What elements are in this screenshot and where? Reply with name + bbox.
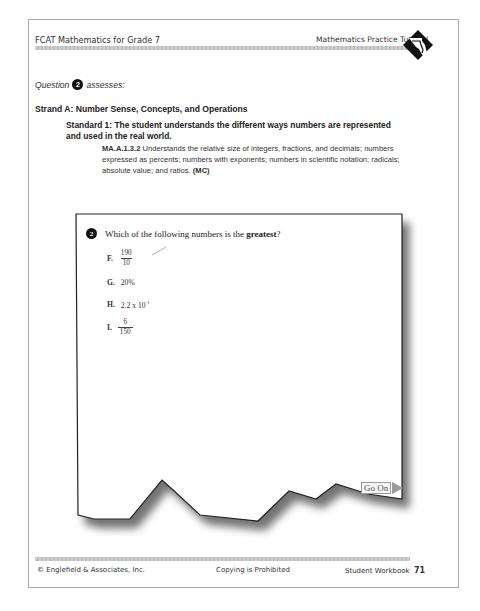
answer-choice-g[interactable]: G. 20%: [107, 278, 135, 287]
go-on-label: Go On: [361, 482, 391, 494]
choice-letter: G.: [107, 278, 115, 287]
choice-value: 20%: [121, 278, 135, 287]
choice-letter: I.: [107, 323, 112, 332]
go-on-button[interactable]: Go On: [361, 482, 403, 494]
footer-notice: Copying is Prohibited: [216, 566, 290, 574]
fraction: 190 10: [119, 249, 134, 268]
question-card: [0, 0, 480, 611]
answer-choice-h[interactable]: H. 2.2 x 10-1: [107, 300, 150, 310]
footer-copyright: © Englefield & Associates, Inc.: [37, 566, 145, 574]
question-prompt: 2 Which of the following numbers is the …: [86, 228, 281, 239]
answer-choice-i[interactable]: I. 6 150: [107, 318, 133, 337]
answer-choice-f[interactable]: F. 190 10: [107, 249, 134, 268]
page-number: 71: [414, 566, 425, 575]
arrow-right-icon: [392, 482, 403, 494]
footer-rule: [35, 557, 410, 561]
fraction: 6 150: [118, 318, 133, 337]
choice-letter: H.: [107, 300, 115, 309]
footer-page-info: Student Workbook 71: [345, 566, 425, 575]
choice-letter: F.: [107, 254, 113, 263]
pencil-mark-icon: [151, 246, 167, 256]
question-text: Which of the following numbers is the gr…: [105, 229, 281, 239]
choice-value: 2.2 x 10-1: [121, 300, 150, 310]
question-number-badge: 2: [86, 228, 97, 239]
